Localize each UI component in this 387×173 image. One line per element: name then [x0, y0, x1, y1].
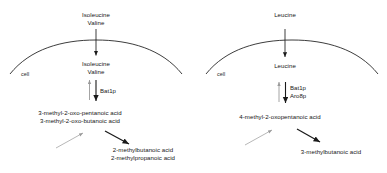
enzyme-labels-right: Bat1p Aro8p — [290, 85, 306, 100]
products-right: 3-methylbutanoic acid — [301, 148, 361, 156]
intracellular-substrate-right-line1: Leucine — [274, 62, 296, 70]
extracellular-substrate-right-line1: Leucine — [274, 11, 296, 19]
keto-acid-left-line2: 3-methyl-2-oxo-butanoic acid — [38, 117, 121, 125]
reverse-oxidation-arrow-right — [245, 130, 272, 145]
keto-acid-right-line1: 4-methyl-2-oxopentanoic acid — [239, 113, 320, 121]
products-left: 2-methylbutanoic acid 2-methylpropanoic … — [111, 146, 175, 161]
enzyme-label-bat1p-left: Bat1p — [100, 88, 116, 96]
keto-acid-left-line1: 3-methyl-2-oxo-pentanoic acid — [38, 109, 121, 117]
intracellular-substrate-left-line2: Valine — [82, 68, 110, 76]
intracellular-substrate-right: Leucine — [274, 62, 296, 70]
pathway-figure: Isoleucine Valine Isoleucine Valine cell… — [0, 0, 387, 173]
enzyme-label-bat1p-right: Bat1p — [290, 85, 306, 93]
reverse-oxidation-arrow-left — [56, 133, 83, 148]
extracellular-substrate-left-line2: Valine — [82, 19, 110, 27]
decarboxylation-arrow-left — [105, 131, 129, 144]
product-right-line1: 3-methylbutanoic acid — [301, 148, 361, 156]
keto-acids-right: 4-methyl-2-oxopentanoic acid — [239, 113, 320, 121]
intracellular-substrate-left: Isoleucine Valine — [82, 60, 110, 75]
extracellular-substrate-left-line1: Isoleucine — [82, 11, 110, 19]
decarboxylation-arrow-right — [297, 129, 320, 142]
cell-label-left: cell — [21, 71, 29, 79]
keto-acids-left: 3-methyl-2-oxo-pentanoic acid 3-methyl-2… — [38, 109, 121, 124]
cell-label-right: cell — [217, 71, 225, 79]
extracellular-substrate-left: Isoleucine Valine — [82, 11, 110, 26]
product-left-line1: 2-methylbutanoic acid — [111, 146, 175, 154]
intracellular-substrate-left-line1: Isoleucine — [82, 60, 110, 68]
enzyme-label-aro8p-right: Aro8p — [290, 93, 306, 101]
extracellular-substrate-right: Leucine — [274, 11, 296, 19]
product-left-line2: 2-methylpropanoic acid — [111, 154, 175, 162]
